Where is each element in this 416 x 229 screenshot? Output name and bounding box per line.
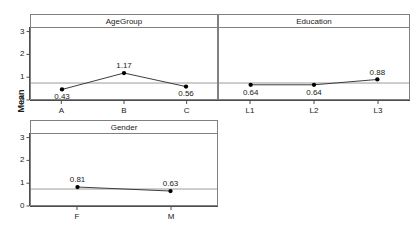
plot-area-education: 0.640.640.88 xyxy=(219,28,409,99)
panel-agegroup: AgeGroup 0.431.170.56 xyxy=(30,14,218,100)
svg-text:M: M xyxy=(168,212,175,221)
y-axis-top: 0123 xyxy=(0,14,30,100)
svg-text:1: 1 xyxy=(20,178,25,187)
svg-text:3: 3 xyxy=(20,133,25,142)
panel-gender: Gender 0.810.63 xyxy=(30,120,218,206)
panel-header-education: Education xyxy=(219,15,409,28)
svg-text:B: B xyxy=(121,106,126,115)
svg-text:3: 3 xyxy=(20,27,25,36)
svg-text:0.43: 0.43 xyxy=(54,92,70,99)
svg-text:1: 1 xyxy=(20,72,25,81)
plot-area-agegroup: 0.431.170.56 xyxy=(31,28,217,99)
svg-text:L1: L1 xyxy=(246,106,255,115)
svg-text:0: 0 xyxy=(20,95,25,104)
x-axis-agegroup: ABC xyxy=(30,100,218,118)
svg-text:0.81: 0.81 xyxy=(70,175,86,184)
svg-text:2: 2 xyxy=(20,155,25,164)
svg-text:0.56: 0.56 xyxy=(178,89,194,98)
y-axis-bottom: 0123 xyxy=(0,120,30,206)
svg-text:0.88: 0.88 xyxy=(370,68,386,77)
svg-text:L3: L3 xyxy=(374,106,383,115)
plot-area-gender: 0.810.63 xyxy=(31,134,217,205)
panel-header-gender: Gender xyxy=(31,121,217,134)
main-effects-plot: Mean 0123 AgeGroup 0.431.170.56 Educatio… xyxy=(0,0,416,229)
svg-text:0.64: 0.64 xyxy=(306,88,322,97)
svg-text:0.63: 0.63 xyxy=(163,179,179,188)
svg-text:F: F xyxy=(75,212,80,221)
svg-text:2: 2 xyxy=(20,49,25,58)
svg-text:0: 0 xyxy=(20,201,25,210)
svg-text:0.64: 0.64 xyxy=(243,88,259,97)
svg-text:A: A xyxy=(59,106,65,115)
svg-text:L2: L2 xyxy=(310,106,319,115)
svg-text:C: C xyxy=(184,106,190,115)
x-axis-gender: FM xyxy=(30,206,218,224)
panel-row-bottom: 0123 Gender 0.810.63 FM xyxy=(0,120,416,220)
panel-row-top: 0123 AgeGroup 0.431.170.56 Education 0.6… xyxy=(0,14,416,114)
x-axis-education: L1L2L3 xyxy=(218,100,410,118)
svg-text:1.17: 1.17 xyxy=(116,61,132,70)
panel-education: Education 0.640.640.88 xyxy=(218,14,410,100)
panel-header-agegroup: AgeGroup xyxy=(31,15,217,28)
